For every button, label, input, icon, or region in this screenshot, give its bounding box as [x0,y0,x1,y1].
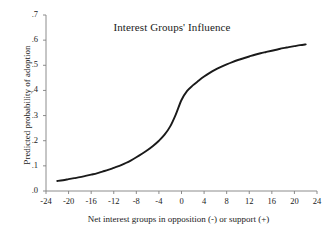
y-tick-label: .3 [22,110,38,120]
x-tick-label: -8 [125,196,147,206]
y-tick-label: .6 [22,34,38,44]
x-tick-label: -20 [58,196,80,206]
axes [46,15,317,191]
x-tick-label: -4 [148,196,170,206]
y-tick-label: .5 [22,59,38,69]
x-tick-label: -12 [103,196,125,206]
y-tick-label: .2 [22,135,38,145]
x-tick-label: 12 [238,196,260,206]
x-tick-label: -16 [80,196,102,206]
x-tick-label: 0 [171,196,193,206]
data-line-series-0 [57,44,305,181]
x-tick-label: 24 [306,196,328,206]
y-tick-label: .4 [22,84,38,94]
x-tick-label: 16 [261,196,283,206]
y-tick-label: .1 [22,160,38,170]
chart-figure: Interest Groups' Influence Predicted pro… [0,0,333,236]
y-tick-label: .0 [22,185,38,195]
x-tick-label: 20 [283,196,305,206]
y-tick-label: .7 [22,9,38,19]
x-tick-label: -24 [35,196,57,206]
x-tick-label: 8 [216,196,238,206]
x-tick-label: 4 [193,196,215,206]
